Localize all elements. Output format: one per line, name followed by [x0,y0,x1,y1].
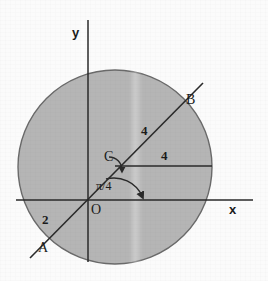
length-oa-label: 2 [42,213,49,226]
point-a-label: A [38,241,48,255]
angle-pi-over-4-label: π/4 [96,180,111,192]
length-cb-label: 4 [141,124,148,137]
x-axis-label: x [229,203,236,216]
scan-band-artifact [129,70,143,265]
figure-canvas [0,0,268,281]
geometry-figure: y x O A B C 2 4 4 π/4 [0,0,268,281]
length-c-horizontal-label: 4 [161,149,168,162]
point-o-label: O [91,203,101,217]
shaded-disk [18,70,212,264]
point-c-label: C [104,150,113,164]
y-axis-label: y [72,26,79,39]
point-b-label: B [186,93,195,107]
